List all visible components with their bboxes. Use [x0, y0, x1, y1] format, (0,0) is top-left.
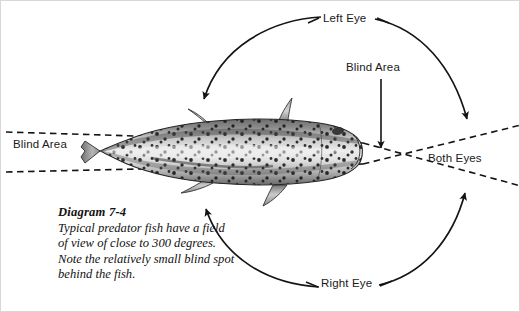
- left-eye-arc-left-segment: [204, 17, 321, 99]
- fish-illustration: [81, 98, 369, 206]
- label-right-eye: Right Eye: [321, 277, 372, 289]
- both-eyes-upper-edge: [363, 143, 520, 186]
- diagram-canvas: Left Eye Blind Area Blind Area Both Eyes…: [0, 0, 520, 312]
- right-eye-arc-right-segment: [379, 193, 465, 285]
- fish-speckles: [97, 115, 369, 189]
- anal-fin: [263, 185, 287, 206]
- caption-body: Typical predator fish have a fieldof vie…: [58, 221, 278, 283]
- caudal-fin: [81, 141, 100, 163]
- label-blind-area-top: Blind Area: [346, 61, 400, 73]
- label-blind-area-left: Blind Area: [13, 138, 67, 150]
- caption-title: Diagram 7-4: [58, 205, 278, 221]
- diagram-caption: Diagram 7-4 Typical predator fish have a…: [58, 205, 278, 283]
- second-dorsal-fin: [279, 98, 292, 122]
- label-left-eye: Left Eye: [323, 12, 366, 24]
- label-both-eyes: Both Eyes: [428, 152, 482, 164]
